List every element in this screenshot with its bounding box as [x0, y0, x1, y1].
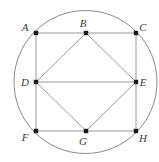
vertex-point-A — [34, 31, 38, 35]
vertex-point-C — [134, 31, 138, 35]
segment-B-E — [86, 33, 136, 82]
vertex-label-D: D — [20, 76, 29, 88]
vertex-label-E: E — [139, 76, 147, 88]
segment-G-D — [36, 82, 86, 131]
vertex-label-C: C — [139, 21, 147, 33]
vertex-point-F — [34, 129, 38, 133]
segment-E-G — [86, 82, 136, 131]
vertex-point-G — [84, 129, 88, 133]
vertex-label-B: B — [80, 17, 87, 29]
vertex-point-B — [84, 31, 88, 35]
geometry-figure: ABCDEFGH — [0, 0, 159, 162]
segment-D-B — [36, 33, 86, 82]
vertex-label-G: G — [79, 135, 87, 147]
vertex-point-E — [134, 80, 138, 84]
vertex-point-D — [34, 80, 38, 84]
vertex-point-H — [134, 129, 138, 133]
vertex-label-F: F — [21, 131, 29, 143]
vertex-label-H: H — [138, 132, 148, 144]
figure-canvas: ABCDEFGH — [0, 0, 159, 162]
segments-group — [36, 33, 136, 131]
vertex-label-A: A — [21, 21, 29, 33]
